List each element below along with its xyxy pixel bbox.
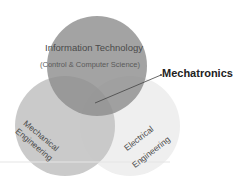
- venn-diagram: [0, 0, 249, 186]
- it-sublabel: (Control & Computer Science): [40, 60, 140, 69]
- mechatronics-label: Mechatronics: [162, 67, 233, 79]
- it-label: Information Technology: [45, 42, 143, 53]
